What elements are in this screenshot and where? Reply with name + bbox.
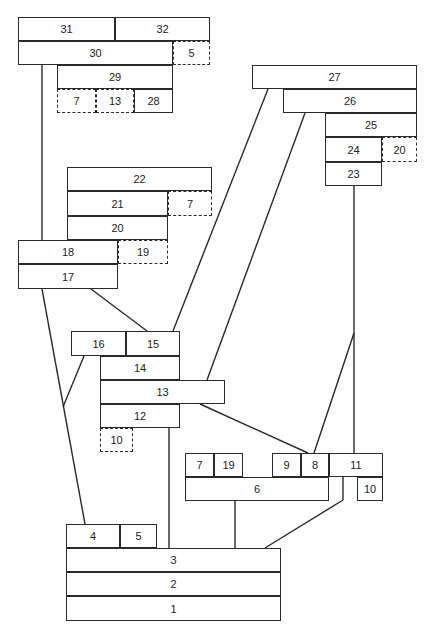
context-unit-4: 4 bbox=[66, 524, 120, 548]
context-unit-12: 12 bbox=[100, 404, 180, 428]
unit-label: 32 bbox=[156, 23, 168, 35]
unit-label: 8 bbox=[312, 459, 318, 471]
context-unit-7: 7 bbox=[185, 453, 214, 477]
unit-label: 10 bbox=[364, 483, 376, 495]
unit-label: 30 bbox=[89, 47, 101, 59]
context-unit-20a: 20 bbox=[382, 137, 417, 162]
unit-label: 18 bbox=[62, 246, 74, 258]
unit-label: 6 bbox=[254, 483, 260, 495]
context-unit-2: 2 bbox=[66, 572, 281, 596]
unit-label: 26 bbox=[344, 95, 356, 107]
context-unit-1: 1 bbox=[66, 596, 281, 621]
context-unit-30: 30 bbox=[18, 41, 173, 65]
unit-label: 14 bbox=[134, 362, 146, 374]
context-unit-32: 32 bbox=[115, 17, 210, 41]
context-unit-10a: 10 bbox=[100, 428, 133, 452]
unit-label: 28 bbox=[147, 95, 159, 107]
connector-line bbox=[200, 404, 308, 453]
unit-label: 5 bbox=[135, 530, 141, 542]
unit-label: 20 bbox=[393, 144, 405, 156]
unit-label: 24 bbox=[347, 144, 359, 156]
unit-label: 22 bbox=[133, 173, 145, 185]
context-unit-26: 26 bbox=[283, 89, 417, 113]
unit-label: 15 bbox=[147, 338, 159, 350]
context-unit-9: 9 bbox=[272, 453, 301, 477]
context-unit-10: 10 bbox=[357, 477, 383, 501]
context-unit-24: 24 bbox=[325, 137, 382, 162]
context-unit-5: 5 bbox=[120, 524, 157, 548]
connector-line bbox=[63, 356, 84, 407]
unit-label: 3 bbox=[170, 554, 176, 566]
unit-label: 11 bbox=[350, 459, 361, 471]
unit-label: 10 bbox=[110, 434, 122, 446]
context-unit-18: 18 bbox=[18, 240, 118, 264]
unit-label: 21 bbox=[111, 198, 123, 210]
unit-label: 19 bbox=[222, 459, 234, 471]
unit-label: 13 bbox=[156, 386, 168, 398]
harris-matrix-diagram: 3132305297132827262524202322217201819171… bbox=[0, 0, 435, 639]
context-unit-6: 6 bbox=[185, 477, 329, 501]
connector-line bbox=[265, 500, 343, 548]
unit-label: 13 bbox=[109, 95, 121, 107]
connector-line bbox=[314, 333, 354, 453]
unit-label: 7 bbox=[187, 198, 193, 210]
unit-label: 20 bbox=[111, 222, 123, 234]
unit-label: 25 bbox=[365, 119, 377, 131]
context-unit-23: 23 bbox=[325, 162, 382, 186]
context-unit-19: 19 bbox=[214, 453, 243, 477]
unit-label: 16 bbox=[92, 338, 104, 350]
unit-label: 23 bbox=[347, 168, 359, 180]
context-unit-16: 16 bbox=[71, 331, 126, 356]
context-unit-13a: 13 bbox=[96, 89, 134, 113]
context-unit-25: 25 bbox=[325, 113, 417, 137]
context-unit-20: 20 bbox=[67, 216, 168, 240]
context-unit-19a: 19 bbox=[118, 240, 168, 264]
unit-label: 29 bbox=[109, 71, 121, 83]
context-unit-31: 31 bbox=[18, 17, 115, 41]
context-unit-14: 14 bbox=[100, 356, 180, 380]
unit-label: 31 bbox=[60, 23, 72, 35]
unit-label: 2 bbox=[170, 578, 176, 590]
unit-label: 9 bbox=[283, 459, 289, 471]
context-unit-15: 15 bbox=[126, 331, 180, 356]
unit-label: 5 bbox=[188, 47, 194, 59]
context-unit-3: 3 bbox=[66, 548, 281, 572]
unit-label: 27 bbox=[328, 71, 340, 83]
context-unit-17: 17 bbox=[18, 264, 118, 289]
unit-label: 19 bbox=[137, 246, 149, 258]
context-unit-21: 21 bbox=[67, 191, 168, 216]
unit-label: 12 bbox=[134, 410, 146, 422]
unit-label: 17 bbox=[62, 271, 74, 283]
unit-label: 4 bbox=[90, 530, 96, 542]
unit-label: 1 bbox=[170, 603, 176, 615]
context-unit-28: 28 bbox=[134, 89, 173, 113]
connector-line bbox=[207, 113, 305, 380]
context-unit-5a: 5 bbox=[173, 41, 210, 65]
context-unit-8: 8 bbox=[301, 453, 329, 477]
context-unit-7a: 7 bbox=[57, 89, 96, 113]
context-unit-22: 22 bbox=[67, 167, 212, 191]
unit-label: 7 bbox=[73, 95, 79, 107]
context-unit-7b: 7 bbox=[168, 191, 212, 216]
context-unit-29: 29 bbox=[57, 65, 173, 89]
context-unit-27: 27 bbox=[252, 65, 417, 89]
unit-label: 7 bbox=[196, 459, 202, 471]
context-unit-11: 11 bbox=[329, 453, 383, 477]
context-unit-13: 13 bbox=[100, 380, 225, 404]
connector-line bbox=[91, 289, 147, 331]
